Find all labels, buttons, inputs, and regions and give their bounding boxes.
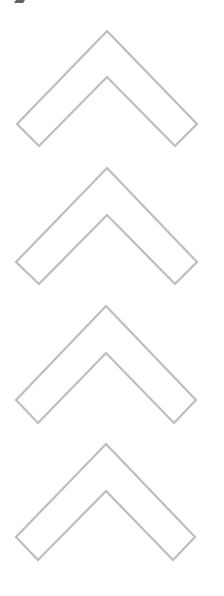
chevron-stack [0,0,224,596]
chevron-up-icon [17,31,197,146]
chevron-icons [0,0,224,596]
chevron-up-icon [16,168,197,284]
chevron-up-icon [16,444,195,560]
chevron-up-icon [16,306,196,423]
